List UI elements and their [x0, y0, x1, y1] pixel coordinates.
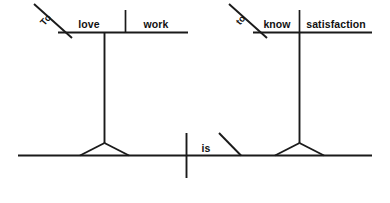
sentence-diagram-svg: To love work is to know satisfaction	[0, 0, 390, 203]
label-work: work	[143, 18, 169, 30]
label-know: know	[263, 18, 291, 30]
label-is: is	[202, 142, 211, 154]
label-to-right: to	[233, 13, 247, 27]
subject-pedestal-right-leg	[105, 143, 130, 156]
complement-slant-line	[219, 133, 241, 156]
subject-pedestal-left-leg	[80, 143, 105, 156]
complement-pedestal-left-leg	[275, 143, 300, 156]
label-to-left: To	[38, 12, 54, 28]
label-love: love	[78, 18, 99, 30]
sentence-diagram-canvas: To love work is to know satisfaction	[0, 0, 390, 203]
label-satisfaction: satisfaction	[306, 18, 366, 30]
complement-pedestal-right-leg	[300, 143, 325, 156]
